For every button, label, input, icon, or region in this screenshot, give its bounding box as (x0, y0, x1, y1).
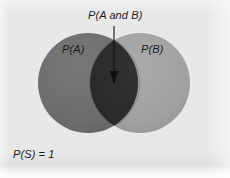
venn-diagram-figure: P(A and B) P(A) P(B) P(S) = 1 (0, 0, 230, 178)
set-b-label: P(B) (141, 43, 163, 55)
sample-space-label: P(S) = 1 (13, 148, 54, 160)
set-a-label: P(A) (62, 43, 84, 55)
intersection-label: P(A and B) (88, 9, 142, 21)
